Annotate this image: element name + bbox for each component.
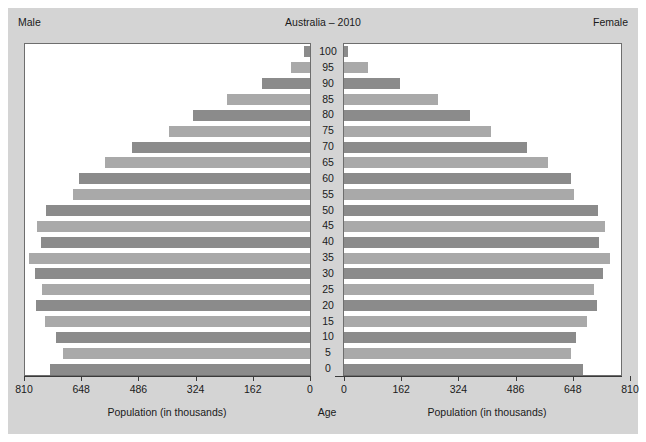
bar-female-age-90 (336, 78, 400, 89)
bar-male-age-40 (41, 237, 310, 248)
age-tick-label-15: 15 (311, 315, 345, 327)
age-tick-label-0: 0 (311, 362, 345, 374)
bar-female-age-20 (336, 300, 597, 311)
bar-male-age-60 (79, 173, 310, 184)
female-axis-tick-label-324: 324 (450, 383, 468, 395)
male-x-axis-line (24, 376, 311, 377)
age-tick-label-70: 70 (311, 140, 345, 152)
female-axis-tick-label-810: 810 (621, 383, 639, 395)
female-axis-tick-324 (458, 376, 459, 381)
bar-female-age-40 (336, 237, 599, 248)
age-axis-column: 0510152025303540455055606570758085909510… (310, 43, 344, 376)
bar-female-age-50 (336, 205, 598, 216)
bar-female-age-5 (336, 348, 571, 359)
bar-male-age-80 (193, 110, 310, 121)
chart-title: Australia – 2010 (8, 16, 638, 28)
bar-female-age-70 (336, 142, 527, 153)
age-tick-label-100: 100 (311, 45, 345, 57)
bar-male-age-35 (29, 253, 310, 264)
bar-female-age-75 (336, 126, 491, 137)
age-tick-label-45: 45 (311, 219, 345, 231)
bar-female-age-45 (336, 221, 605, 232)
age-tick-label-85: 85 (311, 93, 345, 105)
age-tick-label-80: 80 (311, 108, 345, 120)
bar-female-age-55 (336, 189, 574, 200)
bar-male-age-65 (105, 157, 310, 168)
bar-male-age-85 (227, 94, 310, 105)
bar-male-age-75 (169, 126, 310, 137)
female-axis-tick-label-486: 486 (507, 383, 525, 395)
age-tick-label-90: 90 (311, 77, 345, 89)
age-tick-label-60: 60 (311, 172, 345, 184)
age-tick-label-35: 35 (311, 251, 345, 263)
age-tick-label-30: 30 (311, 267, 345, 279)
bar-female-age-65 (336, 157, 548, 168)
female-axis-tick-label-162: 162 (392, 383, 410, 395)
male-axis-tick-810 (24, 376, 25, 381)
female-axis-tick-162 (401, 376, 402, 381)
male-axis-tick-label-486: 486 (130, 383, 148, 395)
age-tick-label-5: 5 (311, 346, 345, 358)
age-tick-label-75: 75 (311, 124, 345, 136)
male-axis-tick-0 (310, 376, 311, 381)
age-tick-label-50: 50 (311, 204, 345, 216)
female-x-axis-line (335, 376, 622, 377)
age-tick-label-20: 20 (311, 299, 345, 311)
male-axis-tick-label-324: 324 (187, 383, 205, 395)
age-tick-label-25: 25 (311, 283, 345, 295)
bar-male-age-70 (132, 142, 310, 153)
bar-female-age-10 (336, 332, 576, 343)
male-axis-tick-648 (81, 376, 82, 381)
population-pyramid-figure: Male Australia – 2010 Female 05101520253… (8, 8, 638, 434)
bar-female-age-30 (336, 268, 603, 279)
bar-female-age-60 (336, 173, 571, 184)
bar-male-age-20 (36, 300, 310, 311)
age-tick-label-40: 40 (311, 235, 345, 247)
bar-male-age-55 (73, 189, 310, 200)
female-axis-tick-0 (344, 376, 345, 381)
male-axis-caption: Population (in thousands) (107, 406, 226, 418)
age-tick-label-65: 65 (311, 156, 345, 168)
male-axis-tick-label-648: 648 (72, 383, 90, 395)
bar-female-age-80 (336, 110, 470, 121)
female-side-label: Female (593, 16, 628, 28)
male-axis-tick-162 (253, 376, 254, 381)
bar-male-age-30 (35, 268, 310, 279)
male-axis-tick-label-0: 0 (307, 383, 313, 395)
bar-female-age-85 (336, 94, 438, 105)
bar-male-age-50 (46, 205, 310, 216)
female-plot-panel (336, 43, 622, 376)
age-axis-caption: Age (310, 406, 344, 418)
male-axis-tick-486 (138, 376, 139, 381)
female-axis-tick-label-0: 0 (341, 383, 347, 395)
male-axis-tick-label-810: 810 (15, 383, 33, 395)
bar-male-age-95 (291, 62, 310, 73)
female-axis-tick-label-648: 648 (564, 383, 582, 395)
female-axis-tick-810 (630, 376, 631, 381)
bar-male-age-10 (56, 332, 310, 343)
bar-male-age-15 (45, 316, 310, 327)
male-axis-tick-324 (196, 376, 197, 381)
bar-male-age-45 (37, 221, 310, 232)
bar-female-age-15 (336, 316, 587, 327)
age-tick-label-55: 55 (311, 188, 345, 200)
male-plot-panel (24, 43, 310, 376)
male-axis-tick-label-162: 162 (244, 383, 262, 395)
bar-male-age-5 (63, 348, 310, 359)
female-axis-caption: Population (in thousands) (427, 406, 546, 418)
age-tick-label-10: 10 (311, 330, 345, 342)
bar-male-age-90 (262, 78, 310, 89)
age-tick-label-95: 95 (311, 61, 345, 73)
bar-female-age-25 (336, 284, 594, 295)
female-axis-tick-486 (516, 376, 517, 381)
bar-male-age-0 (50, 364, 310, 375)
bar-female-age-35 (336, 253, 610, 264)
bar-male-age-25 (42, 284, 310, 295)
female-axis-tick-648 (573, 376, 574, 381)
bar-female-age-0 (336, 364, 583, 375)
